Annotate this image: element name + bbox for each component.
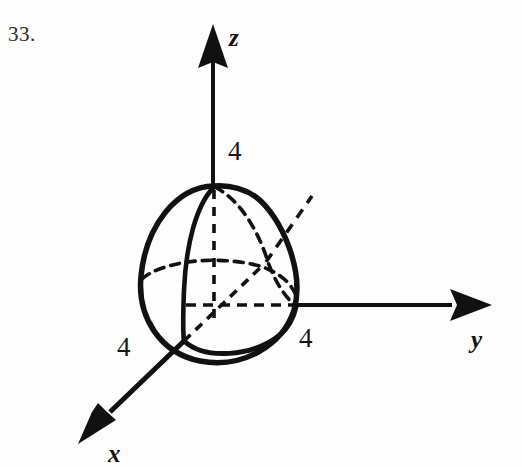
z-axis-group — [198, 24, 228, 186]
x-axis-tick-label-4: 4 — [117, 332, 131, 363]
y-axis-label: y — [471, 326, 482, 354]
hemisphere-back-meridian — [215, 187, 296, 306]
hemisphere-bottom-rim-front — [184, 307, 296, 354]
z-axis-tick-label-4: 4 — [228, 136, 242, 167]
y-axis-tick-label-4: 4 — [299, 323, 313, 354]
y-axis-arrowhead — [450, 289, 492, 321]
z-axis-label: z — [229, 24, 239, 52]
x-axis-group — [78, 196, 312, 444]
hemisphere-silhouette — [141, 186, 297, 363]
hemisphere-diagram-svg — [0, 0, 522, 467]
hemisphere-base-ellipse-hidden — [142, 260, 296, 295]
figure-canvas-root: 33. — [0, 0, 522, 467]
x-axis-label: x — [108, 440, 121, 467]
z-axis-arrowhead — [198, 24, 228, 68]
hemisphere-outline-group — [141, 186, 297, 363]
